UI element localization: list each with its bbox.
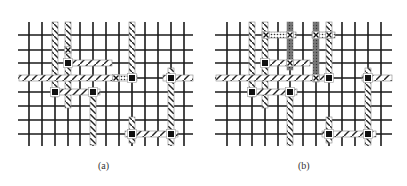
via-square — [365, 75, 371, 81]
via-square — [249, 89, 255, 95]
via-square — [326, 75, 332, 81]
hatched-wire — [326, 22, 332, 80]
hatched-wire — [90, 89, 96, 145]
panel-b-caption: (b) — [298, 160, 310, 171]
via-square — [129, 131, 135, 137]
hatched-wire — [19, 75, 117, 81]
hatched-wire — [129, 22, 135, 80]
panel-b-diagram — [215, 22, 392, 146]
via-square — [168, 131, 174, 137]
hatched-wire — [52, 22, 58, 97]
via-square — [168, 75, 174, 81]
panel-a-diagram — [18, 22, 193, 146]
hatched-wire — [287, 89, 293, 145]
via-square — [90, 89, 96, 95]
via-square — [262, 60, 268, 66]
via-square — [129, 75, 135, 81]
grey-wire — [313, 22, 319, 82]
routing-figure — [0, 0, 407, 186]
via-square — [65, 60, 71, 66]
via-square — [52, 89, 58, 95]
via-square — [326, 131, 332, 137]
panel-a-caption: (a) — [98, 160, 109, 171]
via-square — [287, 89, 293, 95]
hatched-wire — [249, 22, 255, 97]
via-square — [365, 131, 371, 137]
